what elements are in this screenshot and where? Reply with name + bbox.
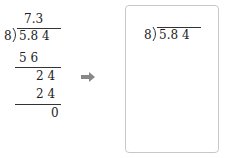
dividend: 5.8 4 <box>19 29 50 43</box>
step-remainder-1: 2 4 <box>36 69 55 83</box>
answer-division-bracket-icon <box>152 26 158 42</box>
divisor: 8 <box>4 29 12 43</box>
quotient: 7.3 <box>24 12 43 26</box>
subtraction-line-2 <box>15 104 61 105</box>
answer-divisor: 8 <box>144 28 152 42</box>
step-product-1: 5 6 <box>19 51 38 65</box>
step-remainder-2: 0 <box>51 106 59 120</box>
step-product-2: 2 4 <box>36 87 55 101</box>
subtraction-line-1 <box>15 67 61 68</box>
answer-box[interactable]: 8 5.8 4 <box>125 5 219 153</box>
answer-dividend: 5.8 4 <box>159 28 190 42</box>
division-bracket-icon <box>12 27 18 43</box>
right-arrow-icon <box>81 72 95 82</box>
